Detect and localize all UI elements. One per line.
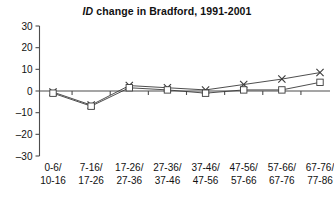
y-tick-label: –30: [16, 151, 33, 162]
data-point-square: [241, 87, 247, 93]
x-tick-label-bottom: 37-46: [155, 175, 181, 186]
x-tick-label-bottom: 77-86: [307, 175, 333, 186]
y-tick-label: 20: [21, 42, 33, 53]
x-tick-label-bottom: 47-56: [193, 175, 219, 186]
x-tick-label-top: 47-56/: [230, 162, 259, 173]
x-tick-label-top: 0-6/: [44, 162, 61, 173]
x-tick-label-bottom: 27-36: [116, 175, 142, 186]
data-point-square: [126, 85, 132, 91]
y-tick-label: –20: [16, 129, 33, 140]
y-tick-label: –10: [16, 107, 33, 118]
data-point-square: [202, 90, 208, 96]
x-tick-label-top: 67-76/: [306, 162, 334, 173]
y-tick-label: 30: [21, 21, 33, 32]
chart-container: ID change in Bradford, 1991-2001 3020100…: [0, 0, 334, 198]
data-point-square: [164, 87, 170, 93]
y-axis-tick-labels: 3020100–10–20–30: [16, 21, 33, 162]
data-point-square: [279, 87, 285, 93]
data-point-square: [88, 103, 94, 109]
y-axis-ticks: [36, 26, 40, 156]
data-point-square: [50, 90, 56, 96]
x-tick-label-top: 57-66/: [268, 162, 297, 173]
data-point-square: [317, 79, 323, 85]
x-tick-label-bottom: 67-76: [269, 175, 295, 186]
x-tick-label-top: 7-16/: [80, 162, 103, 173]
x-tick-label-bottom: 57-66: [231, 175, 257, 186]
x-tick-label-top: 37-46/: [191, 162, 220, 173]
x-tick-label-top: 27-36/: [153, 162, 182, 173]
x-tick-label-bottom: 17-26: [78, 175, 104, 186]
x-tick-label-bottom: 10-16: [40, 175, 66, 186]
x-tick-label-top: 17-26/: [115, 162, 144, 173]
chart-series: [49, 69, 323, 109]
x-axis-tick-labels: 0-6/10-167-16/17-2617-26/27-3627-36/37-4…: [40, 162, 334, 186]
chart-plot-area: 3020100–10–20–30 0-6/10-167-16/17-2617-2…: [0, 0, 334, 198]
y-tick-label: 0: [27, 86, 33, 97]
y-tick-label: 10: [21, 64, 33, 75]
